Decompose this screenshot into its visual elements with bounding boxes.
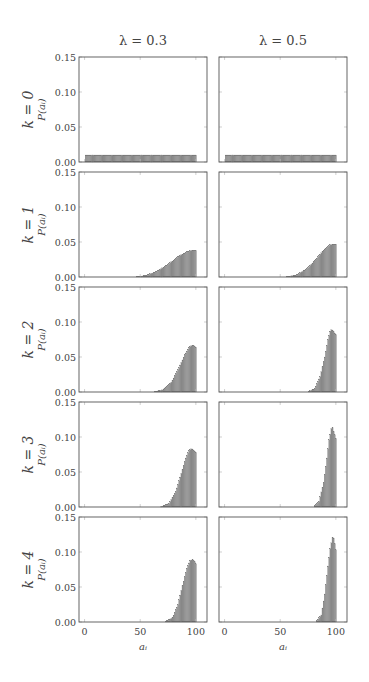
y-tick-label: 0.05 <box>55 582 76 593</box>
x-axis-label: aᵢ <box>139 641 147 652</box>
histogram-bars <box>314 428 336 507</box>
panel-k1-lambda-0.5 <box>219 172 347 277</box>
y-axis-label: P(aᵢ) <box>36 558 47 582</box>
y-tick-label: 0.15 <box>55 52 76 63</box>
y-tick-label: 0.10 <box>55 547 76 558</box>
row-label: k = 2 <box>20 320 36 358</box>
ticks <box>79 57 207 162</box>
histogram-bars <box>161 449 197 507</box>
panel-k4-lambda-0.3: 0.000.050.100.15k = 4P(aᵢ)050100aᵢ <box>20 512 207 653</box>
panel-k2-lambda-0.5 <box>219 287 347 392</box>
column-title-lambda-0-5: λ = 0.5 <box>259 33 307 48</box>
y-tick-label: 0.00 <box>55 617 76 628</box>
y-tick-label: 0.05 <box>55 352 76 363</box>
x-tick-label: 100 <box>187 626 205 637</box>
histogram-bars <box>136 250 196 277</box>
y-tick-label: 0.15 <box>55 167 76 178</box>
figure-grid: λ = 0.3 λ = 0.5 0.000.050.100.15k = 0P(a… <box>0 0 369 682</box>
histogram-bars <box>309 330 337 392</box>
panel-k4-lambda-0.5: 050100aᵢ <box>219 517 347 652</box>
y-tick-label: 0.15 <box>55 397 76 408</box>
histogram-bars <box>225 155 336 162</box>
panel-frame <box>219 57 347 162</box>
row-label: k = 1 <box>20 205 36 243</box>
y-tick-label: 0.05 <box>55 467 76 478</box>
panels: 0.000.050.100.15k = 0P(aᵢ)0.000.050.100.… <box>20 52 347 653</box>
histogram-bars <box>85 155 196 162</box>
histogram-bars <box>154 346 196 392</box>
y-tick-label: 0.15 <box>55 282 76 293</box>
row-label: k = 4 <box>20 550 36 588</box>
row-label: k = 3 <box>20 435 36 473</box>
panel-frame <box>79 57 207 162</box>
y-tick-label: 0.15 <box>55 512 76 523</box>
panel-k3-lambda-0.3: 0.000.050.100.15k = 3P(aᵢ) <box>20 397 207 513</box>
panel-k3-lambda-0.5 <box>219 402 347 507</box>
column-title-lambda-0-3: λ = 0.3 <box>119 33 167 48</box>
y-axis-label: P(aᵢ) <box>36 328 47 352</box>
row-label: k = 0 <box>20 90 36 128</box>
ticks <box>219 57 347 162</box>
y-tick-label: 0.10 <box>55 432 76 443</box>
panel-k0-lambda-0.3: 0.000.050.100.15k = 0P(aᵢ) <box>20 52 207 168</box>
histogram-bars <box>316 537 336 622</box>
y-tick-label: 0.10 <box>55 317 76 328</box>
y-axis-label: P(aᵢ) <box>36 213 47 237</box>
histogram-bars <box>286 244 336 277</box>
y-tick-label: 0.10 <box>55 87 76 98</box>
y-tick-label: 0.05 <box>55 237 76 248</box>
y-axis-label: P(aᵢ) <box>36 98 47 122</box>
panel-k1-lambda-0.3: 0.000.050.100.15k = 1P(aᵢ) <box>20 167 207 283</box>
y-tick-label: 0.05 <box>55 122 76 133</box>
x-tick-label: 50 <box>274 626 286 637</box>
x-tick-label: 50 <box>134 626 146 637</box>
x-tick-label: 0 <box>222 626 228 637</box>
x-tick-label: 100 <box>327 626 345 637</box>
x-tick-label: 0 <box>82 626 88 637</box>
histogram-bars <box>165 560 196 622</box>
panel-k0-lambda-0.5 <box>219 57 347 162</box>
column-titles: λ = 0.3 λ = 0.5 <box>119 33 307 48</box>
y-tick-label: 0.10 <box>55 202 76 213</box>
x-axis-label: aᵢ <box>279 641 287 652</box>
y-axis-label: P(aᵢ) <box>36 443 47 467</box>
panel-k2-lambda-0.3: 0.000.050.100.15k = 2P(aᵢ) <box>20 282 207 398</box>
